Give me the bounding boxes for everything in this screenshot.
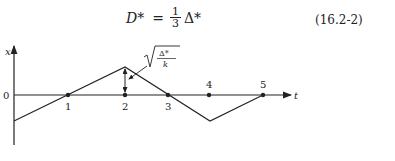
point-3 xyxy=(166,93,170,97)
point-label-3: 3 xyxy=(165,101,171,112)
point-1 xyxy=(66,93,70,97)
point-5 xyxy=(261,93,265,97)
annotation-num: Δ* xyxy=(159,49,169,58)
point-label-5: 5 xyxy=(260,79,266,90)
y-axis-label: x xyxy=(5,46,11,57)
point-label-4: 4 xyxy=(206,79,212,90)
trajectory-line xyxy=(14,67,263,121)
x-axis-label: t xyxy=(294,90,299,101)
annotation-leader xyxy=(129,66,147,79)
point-4 xyxy=(207,93,211,97)
annotation-den: k xyxy=(163,60,168,69)
origin-label: 0 xyxy=(3,90,9,101)
point-label-2: 2 xyxy=(122,101,128,112)
point-label-1: 1 xyxy=(65,101,71,112)
point-2 xyxy=(123,93,127,97)
displacement-diagram: x t 0 1 2 3 4 5 Δ* k xyxy=(0,0,395,161)
